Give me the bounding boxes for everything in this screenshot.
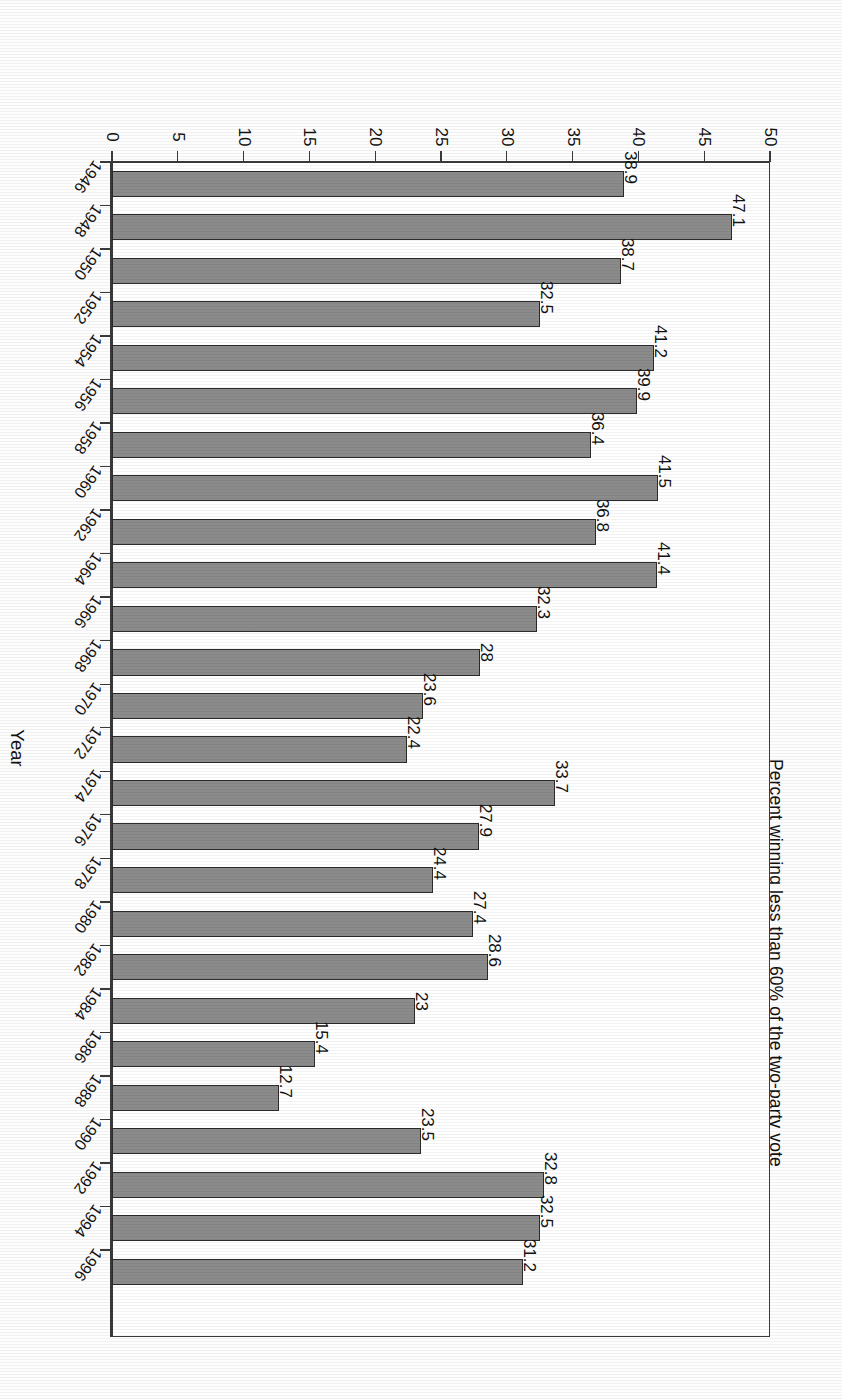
bar bbox=[112, 1259, 523, 1285]
bar bbox=[112, 954, 488, 980]
bar-value-label: 32.5 bbox=[536, 1178, 556, 1228]
bar-value-label: 36.4 bbox=[587, 395, 607, 445]
category-tick bbox=[100, 988, 111, 989]
category-tick bbox=[100, 640, 111, 641]
bar-value-label: 41.5 bbox=[654, 438, 674, 488]
bar-value-label: 32.5 bbox=[536, 264, 556, 314]
bar-value-label: 23 bbox=[411, 961, 431, 1011]
bar bbox=[112, 388, 637, 414]
bar bbox=[112, 214, 732, 240]
bar-value-label: 12.7 bbox=[275, 1048, 295, 1098]
category-tick bbox=[100, 1119, 111, 1120]
category-tick bbox=[100, 422, 111, 423]
bar bbox=[112, 1215, 540, 1241]
bar bbox=[112, 171, 624, 197]
category-tick bbox=[100, 684, 111, 685]
category-tick bbox=[100, 553, 111, 554]
bar bbox=[112, 693, 423, 719]
category-tick bbox=[100, 597, 111, 598]
bar bbox=[112, 1085, 279, 1111]
bar-value-label: 15.4 bbox=[311, 1004, 331, 1054]
bar-value-label: 24.4 bbox=[429, 830, 449, 880]
category-tick bbox=[100, 901, 111, 902]
bar bbox=[112, 1172, 544, 1198]
bar-value-label: 36.8 bbox=[592, 482, 612, 532]
category-tick bbox=[100, 1162, 111, 1163]
bar-value-label: 41.2 bbox=[650, 308, 670, 358]
bar-value-label: 47.1 bbox=[728, 177, 748, 227]
category-tick bbox=[100, 1206, 111, 1207]
category-tick bbox=[100, 771, 111, 772]
rotated-figure: Percent winning less than 60% of the two… bbox=[0, 0, 842, 1399]
bar-value-label: 28.6 bbox=[484, 917, 504, 967]
bar bbox=[112, 823, 479, 849]
bar-value-label: 38.9 bbox=[620, 134, 640, 184]
category-tick bbox=[100, 727, 111, 728]
bar-value-label: 27.9 bbox=[475, 787, 495, 837]
value-tick-label: 15 bbox=[299, 115, 319, 159]
bar-value-label: 28 bbox=[476, 612, 496, 662]
value-tick-label: 50 bbox=[760, 115, 780, 159]
value-tick-label: 5 bbox=[168, 115, 188, 159]
bar bbox=[112, 736, 407, 762]
category-tick bbox=[100, 161, 111, 162]
bar bbox=[112, 562, 657, 588]
value-tick-label: 30 bbox=[497, 115, 517, 159]
value-tick-label: 20 bbox=[365, 115, 385, 159]
bar-value-label: 31.2 bbox=[519, 1222, 539, 1272]
bar bbox=[112, 301, 540, 327]
bar bbox=[112, 345, 654, 371]
bar bbox=[112, 606, 537, 632]
value-tick-label: 45 bbox=[694, 115, 714, 159]
value-tick-label: 25 bbox=[431, 115, 451, 159]
bar bbox=[112, 475, 658, 501]
bar bbox=[112, 911, 473, 937]
category-tick bbox=[100, 466, 111, 467]
category-axis-title: Year bbox=[6, 729, 28, 766]
value-tick-label: 35 bbox=[563, 115, 583, 159]
category-tick bbox=[100, 945, 111, 946]
bar bbox=[112, 998, 415, 1024]
bar-value-label: 41.4 bbox=[653, 525, 673, 575]
category-tick bbox=[100, 292, 111, 293]
bar-chart-figure: Percent winning less than 60% of the two… bbox=[0, 0, 842, 1399]
category-tick bbox=[100, 248, 111, 249]
category-tick bbox=[100, 858, 111, 859]
bar-value-label: 38.7 bbox=[617, 221, 637, 271]
bar bbox=[112, 432, 591, 458]
bar bbox=[112, 519, 596, 545]
bar-value-label: 23.5 bbox=[417, 1091, 437, 1141]
bar bbox=[112, 867, 433, 893]
bar-value-label: 22.4 bbox=[403, 700, 423, 750]
category-tick bbox=[100, 814, 111, 815]
category-tick bbox=[100, 1249, 111, 1250]
category-tick bbox=[100, 205, 111, 206]
value-tick-label: 10 bbox=[234, 115, 254, 159]
category-tick bbox=[100, 335, 111, 336]
bar-value-label: 33.7 bbox=[552, 743, 572, 793]
category-tick bbox=[100, 509, 111, 510]
category-tick bbox=[100, 379, 111, 380]
value-tick-label: 0 bbox=[102, 115, 122, 159]
chart-page: Percent winning less than 60% of the two… bbox=[0, 0, 842, 1399]
bar-value-label: 39.9 bbox=[633, 351, 653, 401]
bar-value-label: 32.3 bbox=[533, 569, 553, 619]
bar bbox=[112, 1128, 421, 1154]
category-tick bbox=[100, 1032, 111, 1033]
category-tick bbox=[100, 1075, 111, 1076]
